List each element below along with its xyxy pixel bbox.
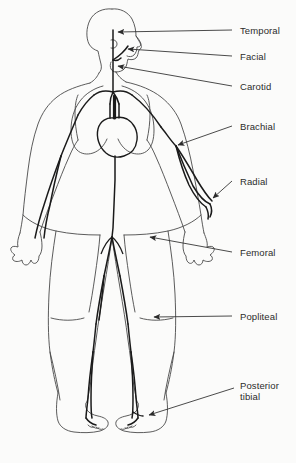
left-thigh-inner-crease	[89, 235, 100, 312]
right-hand-arch	[210, 204, 212, 217]
iliac-left	[104, 237, 112, 276]
right-toes-detail	[121, 425, 136, 429]
torso-right-outline	[126, 82, 204, 233]
right-axillary-artery	[132, 95, 161, 127]
label-carotid: Carotid	[240, 81, 271, 92]
right-thigh-inner-crease	[124, 235, 135, 312]
right-hand-arch2	[206, 207, 208, 219]
iliac-right	[112, 237, 120, 276]
left-brachial-artery	[61, 115, 78, 156]
leader-temporal	[118, 30, 232, 32]
right-leg-outer	[166, 231, 176, 393]
right-foot-artery	[128, 418, 138, 425]
label-popliteal: Popliteal	[240, 311, 277, 322]
leader-carotid	[118, 66, 232, 86]
subclavian-left	[94, 91, 113, 95]
leader-femoral	[150, 237, 232, 252]
leader-brachial	[178, 126, 232, 145]
leader-lines	[118, 30, 234, 415]
left-hand-outline	[11, 232, 42, 265]
left-calf-outer	[50, 352, 60, 400]
label-temporal: Temporal	[240, 25, 280, 36]
left-toes-detail	[88, 425, 103, 429]
left-leg-inner	[91, 237, 112, 380]
subclavian-right	[113, 91, 132, 95]
label-radial: Radial	[240, 176, 268, 187]
right-foot-outline	[116, 393, 168, 433]
left-leg-outer	[48, 231, 58, 393]
arterial-tree	[35, 30, 212, 425]
torso-left-outline	[20, 83, 90, 233]
right-leg-inner	[112, 237, 133, 380]
heart-outline	[97, 117, 137, 157]
label-brachial: Brachial	[240, 121, 275, 132]
descending-aorta	[112, 156, 115, 237]
right-hand-outline	[183, 232, 214, 265]
label-facial: Facial	[240, 51, 266, 62]
ear-detail	[111, 40, 117, 49]
label-posterior-tibial-line1: Posterior	[240, 380, 279, 391]
leader-radial	[213, 181, 232, 198]
label-femoral: Femoral	[240, 247, 276, 258]
neck-outline	[90, 72, 126, 83]
right-brachial-artery	[161, 127, 176, 146]
head-outline	[87, 9, 142, 73]
leader-posterior-tibial	[149, 388, 234, 415]
right-calf-outer	[164, 352, 174, 400]
label-posterior-tibial-line2: tibial	[240, 391, 260, 402]
anatomy-diagram-page: Temporal Facial Carotid Brachial Radial …	[0, 0, 296, 463]
left-foot-artery	[86, 418, 96, 425]
left-knee-line	[51, 318, 84, 320]
right-knee-line	[140, 318, 173, 320]
left-foot-outline	[57, 393, 109, 433]
leader-popliteal	[154, 316, 232, 317]
leader-facial	[128, 49, 232, 56]
right-femoral-artery	[120, 276, 128, 324]
face-profile	[127, 36, 141, 57]
left-axillary-artery	[78, 95, 94, 115]
